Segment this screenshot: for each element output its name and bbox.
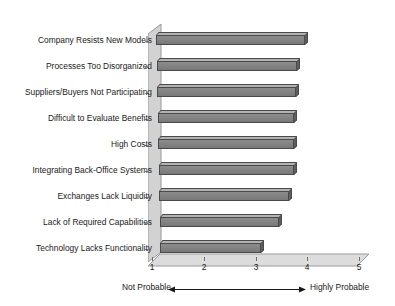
- bar-chart: Company Resists New Models Processes Too…: [0, 0, 395, 306]
- bar-6: [159, 188, 289, 201]
- bar-side-face: [289, 188, 292, 201]
- bar-0: [156, 32, 305, 45]
- bar-8: [160, 240, 261, 253]
- x-tick-mark: [256, 257, 257, 261]
- x-tick-label-4: 5: [351, 262, 367, 272]
- x-tick-mark: [204, 257, 205, 261]
- bar-front-face: [159, 165, 294, 175]
- bar-side-face: [294, 136, 297, 149]
- x-tick-mark: [307, 257, 308, 261]
- bar-front-face: [158, 113, 294, 123]
- scale-arrow-icon: [168, 285, 306, 294]
- bar-5: [159, 162, 294, 175]
- bar-side-face: [297, 58, 300, 71]
- category-label-8: Technology Lacks Functionality: [36, 244, 152, 253]
- x-tick-label-0: 1: [144, 262, 160, 272]
- bar-side-face: [294, 162, 297, 175]
- category-label-6: Exchanges Lack Liquidity: [57, 192, 152, 201]
- bar-2: [157, 84, 296, 97]
- category-label-4: High Costs: [111, 140, 152, 149]
- category-label-3: Difficult to Evaluate Benefits: [48, 114, 152, 123]
- scale-high-label: Highly Probable: [310, 282, 369, 292]
- x-tick-mark: [359, 257, 360, 261]
- bar-3: [158, 110, 294, 123]
- category-label-5: Integrating Back-Office Systems: [33, 166, 152, 175]
- bar-front-face: [157, 61, 297, 71]
- x-tick-mark: [152, 257, 153, 261]
- bar-front-face: [159, 191, 289, 201]
- bar-side-face: [296, 84, 299, 97]
- bar-7: [160, 214, 279, 227]
- plot-area: Company Resists New Models Processes Too…: [0, 0, 395, 306]
- bar-1: [157, 58, 297, 71]
- bar-4: [158, 136, 294, 149]
- category-label-2: Suppliers/Buyers Not Participating: [25, 88, 152, 97]
- bar-side-face: [305, 32, 308, 45]
- scale-low-label: Not Probable: [122, 282, 171, 292]
- category-label-0: Company Resists New Models: [38, 36, 152, 45]
- category-label-7: Lack of Required Capabilities: [43, 218, 152, 227]
- bar-side-face: [261, 240, 264, 253]
- x-tick-label-3: 4: [299, 262, 315, 272]
- bar-front-face: [157, 87, 296, 97]
- bar-side-face: [294, 110, 297, 123]
- x-tick-label-2: 3: [248, 262, 264, 272]
- bar-front-face: [160, 217, 279, 227]
- bar-side-face: [279, 214, 282, 227]
- category-label-1: Processes Too Disorganized: [46, 62, 152, 71]
- bar-front-face: [160, 243, 261, 253]
- bar-front-face: [158, 139, 294, 149]
- x-tick-label-1: 2: [196, 262, 212, 272]
- bar-front-face: [156, 35, 305, 45]
